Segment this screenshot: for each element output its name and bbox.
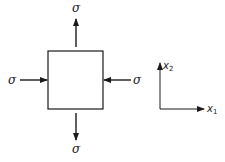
top-sigma-label: σ: [72, 1, 81, 15]
stress-element-square: [48, 51, 103, 109]
bottom-sigma-label: σ: [72, 142, 81, 156]
right-sigma-label: σ: [133, 73, 142, 87]
stress-element-diagram: σ σ σ σ x2 x1: [0, 0, 225, 162]
left-sigma-label: σ: [8, 73, 17, 87]
x2-axis-label: x2: [162, 60, 173, 73]
x1-axis-label: x1: [206, 103, 217, 116]
